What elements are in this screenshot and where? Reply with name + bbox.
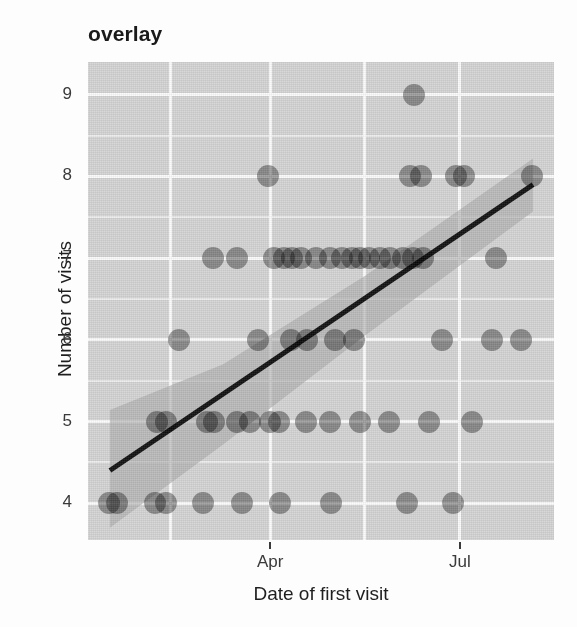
data-point [320,492,342,514]
x-axis-title: Date of first visit [88,583,554,605]
chart-title: overlay [88,22,162,46]
gridline-y-major [88,93,554,96]
chart-figure: overlay Number of visits Date of first v… [0,0,577,627]
data-point [202,247,224,269]
gridline-y-minor [88,380,554,382]
y-tick-label: 7 [38,247,72,267]
data-point [106,492,128,514]
data-point [442,492,464,514]
data-point [396,492,418,514]
data-point [453,165,475,187]
data-point [257,165,279,187]
gridline-y-minor [88,216,554,218]
data-point [231,492,253,514]
y-axis-title: Number of visits [54,179,76,439]
data-point [155,492,177,514]
data-point [247,329,269,351]
gridline-x-major [363,62,366,540]
data-point [461,411,483,433]
data-point [296,329,318,351]
y-tick-label: 9 [38,84,72,104]
gridline-y-minor [88,298,554,300]
data-point [349,411,371,433]
plot-panel [88,62,554,540]
data-point [239,411,261,433]
x-tick-label: Jul [430,552,490,572]
data-point [319,411,341,433]
data-point [155,411,177,433]
data-point [295,411,317,433]
data-point [226,247,248,269]
gridline-x-major [458,62,461,540]
data-point [485,247,507,269]
data-point [412,247,434,269]
data-point [521,165,543,187]
y-tick-label: 4 [38,492,72,512]
data-point [343,329,365,351]
data-point [418,411,440,433]
data-point [378,411,400,433]
x-tick-mark [459,542,461,549]
data-point [481,329,503,351]
x-tick-label: Apr [240,552,300,572]
data-point [431,329,453,351]
gridline-y-major [88,175,554,178]
data-point [269,492,291,514]
y-tick-label: 8 [38,165,72,185]
gridline-y-minor [88,461,554,463]
y-tick-label: 5 [38,411,72,431]
data-point [168,329,190,351]
data-point [203,411,225,433]
data-point [192,492,214,514]
data-point [268,411,290,433]
data-point [410,165,432,187]
x-tick-mark [269,542,271,549]
gridline-x-major [269,62,272,540]
data-point [403,84,425,106]
gridline-x-major [169,62,172,540]
gridline-y-minor [88,135,554,137]
data-point [510,329,532,351]
y-tick-label: 6 [38,329,72,349]
